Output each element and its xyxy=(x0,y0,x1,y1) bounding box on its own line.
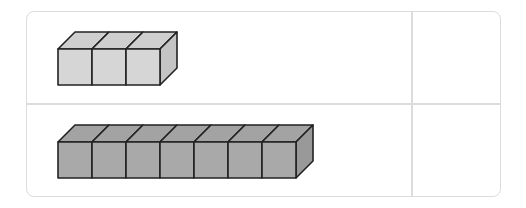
cube-row-2 xyxy=(58,125,313,178)
cube-front-face xyxy=(58,49,92,85)
cube-row-1 xyxy=(58,32,177,85)
cube-front-face xyxy=(228,142,262,178)
cube-front-face xyxy=(126,142,160,178)
cube-front-face xyxy=(194,142,228,178)
cube-front-face xyxy=(160,142,194,178)
cube-front-face xyxy=(126,49,160,85)
cube-front-face xyxy=(262,142,296,178)
cube-rows-illustration xyxy=(0,0,526,208)
cube-front-face xyxy=(92,142,126,178)
cube-front-face xyxy=(58,142,92,178)
cube-front-face xyxy=(92,49,126,85)
